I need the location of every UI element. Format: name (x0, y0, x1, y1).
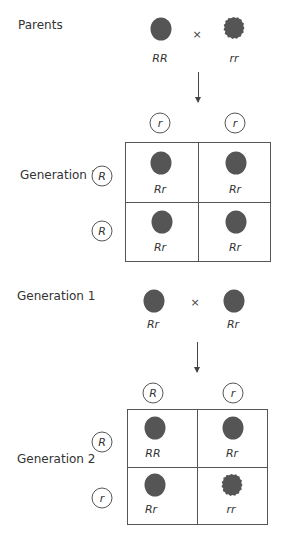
round-pea-icon (144, 473, 166, 497)
gen1-genotype-right: Rr (227, 318, 239, 331)
parent-genotype-left: RR (152, 52, 167, 65)
row-allele-1: R (92, 432, 113, 453)
row-allele-1: R (92, 166, 113, 187)
round-pea-icon (223, 289, 245, 313)
round-pea-icon (144, 416, 166, 440)
round-pea-icon (222, 416, 244, 440)
cross-symbol: × (192, 28, 201, 41)
round-pea-icon (225, 151, 247, 175)
punnett-square-gen1 (125, 142, 271, 262)
cell-genotype: Rr (145, 503, 157, 516)
cell-genotype: Rr (154, 241, 166, 254)
row-allele-2: R (92, 221, 113, 242)
col-allele-2: r (225, 113, 246, 134)
cell-genotype: Rr (229, 241, 241, 254)
round-pea-icon (225, 210, 247, 234)
cell-genotype: Rr (229, 183, 241, 196)
generation1-square-label: Generation 1 (20, 168, 98, 182)
wrinkled-pea-icon (223, 16, 246, 41)
round-pea-icon (143, 289, 165, 313)
generation1-cross-label: Generation 1 (17, 289, 95, 303)
round-pea-icon (151, 210, 173, 234)
round-pea-icon (150, 151, 172, 175)
cell-genotype: RR (145, 447, 160, 460)
parents-label: Parents (18, 18, 63, 32)
cell-genotype: Rr (226, 447, 238, 460)
parent-genotype-right: rr (229, 52, 238, 65)
wrinkled-pea-icon (221, 473, 244, 498)
col-allele-1: r (150, 113, 171, 134)
gen1-genotype-left: Rr (147, 318, 159, 331)
cell-genotype: Rr (154, 183, 166, 196)
col-allele-1: R (143, 383, 164, 404)
generation2-label: Generation 2 (17, 452, 95, 466)
col-allele-2: r (223, 383, 244, 404)
cell-genotype: rr (226, 503, 235, 516)
row-allele-2: r (92, 488, 113, 509)
down-arrow-icon (198, 72, 199, 102)
cross-symbol: × (190, 296, 199, 309)
round-pea-icon (150, 17, 172, 41)
down-arrow-icon (197, 342, 198, 372)
